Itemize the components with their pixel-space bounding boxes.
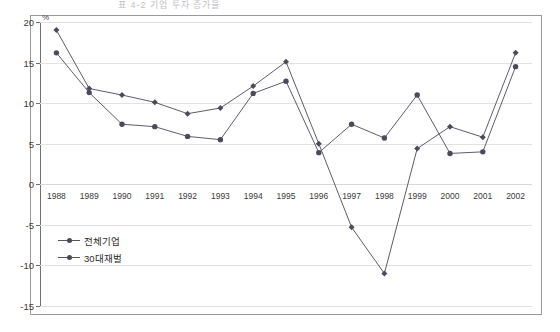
series-line-0 — [56, 30, 515, 273]
y-tick-label--10: -10 — [20, 260, 34, 271]
data-point-1-1999 — [415, 92, 420, 97]
data-point-1-1994 — [251, 91, 256, 96]
y-tick-mark--15 — [36, 306, 40, 307]
data-point-1-1995 — [283, 79, 288, 84]
data-point-1-1998 — [382, 135, 387, 140]
data-point-1-1991 — [152, 124, 157, 129]
y-tick-label--5: -5 — [26, 219, 34, 230]
data-point-1-2001 — [480, 149, 485, 154]
data-point-0-1997 — [349, 224, 355, 230]
data-point-1-1996 — [316, 150, 321, 155]
y-tick-label-5: 5 — [29, 138, 34, 149]
data-point-1-2002 — [513, 64, 518, 69]
legend-marker-circle-icon — [58, 257, 80, 258]
y-axis-unit-label: % — [42, 13, 49, 22]
y-tick-label--15: -15 — [20, 301, 34, 312]
data-point-0-1998 — [381, 271, 387, 277]
series-line-1 — [56, 53, 515, 154]
legend-item-1[interactable]: 30대재벌 — [58, 249, 122, 266]
data-point-0-1991 — [152, 99, 158, 105]
legend-marker-diamond-icon — [58, 240, 80, 241]
chart-screenshot: 표 4-2 기업 투자 증가율 % 20151050-5-10-15 19881… — [0, 0, 560, 332]
data-point-0-2002 — [513, 50, 519, 56]
data-point-1-1989 — [87, 90, 92, 95]
data-point-0-2000 — [447, 124, 453, 130]
chart-legend: 전체기업 30대재벌 — [58, 232, 122, 266]
legend-label-1: 30대재벌 — [84, 251, 122, 265]
legend-label-0: 전체기업 — [84, 234, 120, 248]
data-point-1-1993 — [218, 137, 223, 142]
data-point-1-1988 — [54, 50, 59, 55]
data-point-0-2001 — [480, 134, 486, 140]
data-point-0-1993 — [217, 105, 223, 111]
data-point-0-1988 — [53, 27, 59, 33]
data-point-1-1990 — [119, 122, 124, 127]
data-point-1-1997 — [349, 122, 354, 127]
legend-item-0[interactable]: 전체기업 — [58, 232, 122, 249]
data-point-0-1992 — [185, 111, 191, 117]
y-tick-label-0: 0 — [29, 179, 34, 190]
y-tick-label-20: 20 — [23, 17, 34, 28]
data-point-1-1992 — [185, 134, 190, 139]
data-point-0-1999 — [414, 146, 420, 152]
data-point-0-1996 — [316, 141, 322, 147]
y-tick-label-15: 15 — [23, 57, 34, 68]
clipped-title: 표 4-2 기업 투자 증가율 — [118, 0, 298, 11]
data-point-0-1990 — [119, 92, 125, 98]
series-1 — [54, 50, 519, 156]
y-tick-label-10: 10 — [23, 98, 34, 109]
data-point-1-2000 — [447, 151, 452, 156]
gridline--15 — [40, 306, 532, 307]
